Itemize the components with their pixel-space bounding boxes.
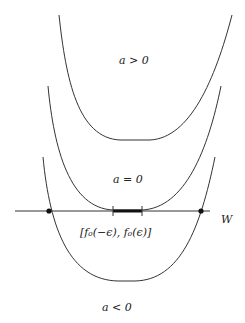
curve-a-zero (48, 86, 221, 210)
label-a-zero: a = 0 (113, 173, 143, 186)
intersection-dot-right (198, 208, 203, 213)
intersection-dot-left (46, 208, 51, 213)
label-axis-w: W (221, 213, 234, 226)
curve-a-positive (59, 15, 232, 140)
potential-curves-diagram: a > 0 a = 0 W [f₀(−ϵ), f₀(ϵ)] a < 0 (0, 0, 245, 323)
label-interval: [f₀(−ϵ), f₀(ϵ)] (80, 226, 152, 239)
label-a-negative: a < 0 (102, 301, 132, 314)
label-a-positive: a > 0 (119, 54, 149, 67)
